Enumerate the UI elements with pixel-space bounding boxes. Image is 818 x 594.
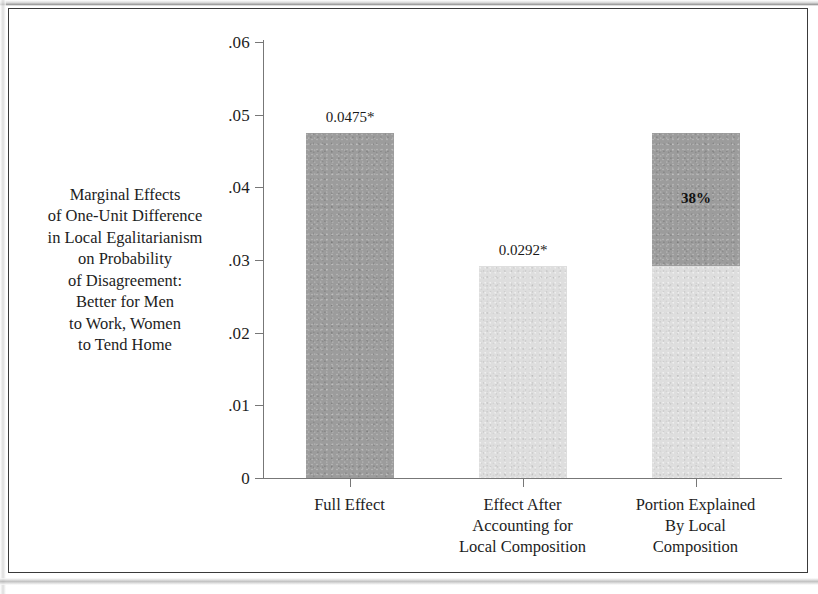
- y-axis-tick-mark: [255, 115, 263, 116]
- bar-value-label: 0.0292*: [459, 243, 587, 258]
- y-axis-tick-mark: [255, 405, 263, 406]
- bar-segment[interactable]: [652, 266, 740, 478]
- x-axis-tick-mark: [350, 479, 351, 487]
- y-axis-tick-mark: [255, 478, 263, 479]
- bar-segment[interactable]: [306, 133, 394, 478]
- x-axis-category-label: Full Effect: [263, 494, 436, 515]
- x-axis-category-label: Portion ExplainedBy LocalComposition: [609, 494, 782, 557]
- x-axis-category-label-line: Portion Explained: [609, 494, 782, 515]
- bar-segment[interactable]: [479, 266, 567, 478]
- y-axis-tick-mark: [255, 187, 263, 188]
- x-axis-category-label: Effect AfterAccounting forLocal Composit…: [436, 494, 609, 557]
- figure-container: Marginal Effects of One-Unit Difference …: [0, 0, 818, 594]
- y-axis-tick-mark: [255, 333, 263, 334]
- y-axis-tick-label: .06: [204, 34, 250, 51]
- y-axis-tick-label: .02: [204, 325, 250, 342]
- y-axis-tick-label: 0: [204, 470, 250, 487]
- bar-value-label: 0.0475*: [286, 110, 414, 125]
- y-axis-tick-label: .03: [204, 252, 250, 269]
- y-axis-tick-mark: [255, 260, 263, 261]
- y-axis-tick-mark: [255, 42, 263, 43]
- x-axis-category-label-line: Accounting for: [436, 515, 609, 536]
- y-axis-tick-label: .01: [204, 397, 250, 414]
- x-axis-tick-mark: [696, 479, 697, 487]
- y-axis-tick-label: .05: [204, 107, 250, 124]
- x-axis-category-label-line: Composition: [609, 536, 782, 557]
- y-axis-title: Marginal Effects of One-Unit Difference …: [36, 184, 214, 356]
- x-axis-category-label-line: By Local: [609, 515, 782, 536]
- bar-chart-plot: Marginal Effects of One-Unit Difference …: [0, 0, 818, 594]
- x-axis-tick-mark: [523, 479, 524, 487]
- x-axis-category-label-line: Local Composition: [436, 536, 609, 557]
- x-axis-category-label-line: Full Effect: [263, 494, 436, 515]
- x-axis-category-label-line: Effect After: [436, 494, 609, 515]
- bar-segment-annotation: 38%: [652, 191, 740, 206]
- y-axis-tick-label: .04: [204, 179, 250, 196]
- y-axis-line: [263, 40, 264, 479]
